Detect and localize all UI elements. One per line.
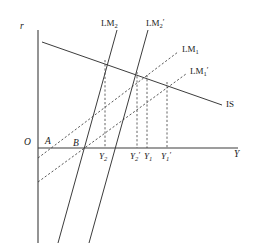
prime-mark: ′	[138, 151, 140, 160]
is-lm-diagram: r Y O ISLM2LM2′LM1LM1′ AB Y2Y2′Y1Y1′	[0, 0, 256, 252]
x-tick-label-Y2: Y2	[99, 152, 107, 161]
curve-label-LM2p: LM2′	[146, 19, 165, 28]
subscript: 1	[196, 48, 199, 55]
curve-LM1p	[38, 74, 186, 182]
x-axis-label: Y	[234, 150, 239, 160]
subscript: 2	[115, 22, 118, 29]
curve-LM2	[58, 30, 117, 243]
y-axis-label: r	[20, 22, 24, 32]
point-label-A: A	[45, 137, 51, 147]
curve-label-IS: IS	[226, 100, 234, 109]
x-tick-label-Y1: Y1	[144, 152, 152, 161]
curve-label-LM1: LM1	[182, 45, 199, 54]
subscript: 2	[104, 155, 107, 162]
axes-group	[38, 30, 238, 243]
x-tick-label-Y2p: Y2′	[130, 152, 140, 161]
curve-label-LM1p: LM1′	[190, 67, 209, 76]
prime-mark: ′	[163, 18, 165, 27]
subscript: 1	[149, 155, 152, 162]
point-label-B: B	[73, 139, 79, 149]
prime-mark: ′	[207, 66, 209, 75]
origin-label: O	[24, 138, 31, 148]
curve-label-LM2: LM2	[101, 19, 118, 28]
curve-LM1	[38, 52, 178, 158]
plot-canvas	[0, 0, 256, 252]
x-tick-label-Y1p: Y1′	[161, 152, 171, 161]
prime-mark: ′	[169, 151, 171, 160]
curves-group	[38, 30, 222, 243]
